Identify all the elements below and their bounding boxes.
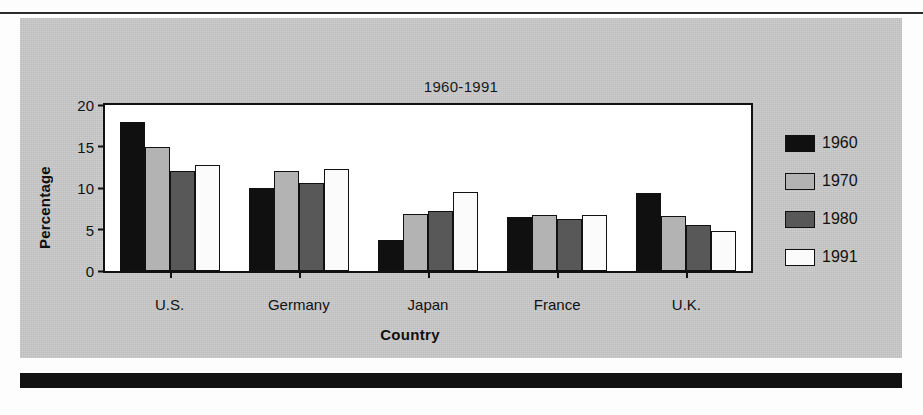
y-axis-tick-mark	[98, 229, 105, 231]
legend-item: 1970	[785, 162, 895, 200]
y-axis-tick: 5	[86, 221, 105, 238]
bar	[324, 169, 349, 271]
bar	[120, 122, 145, 271]
bar-group	[249, 105, 349, 271]
legend-swatch	[785, 249, 815, 266]
y-axis-tick-mark	[98, 104, 105, 106]
legend-label: 1980	[822, 210, 858, 228]
y-axis-tick: 20	[77, 97, 105, 114]
bar	[249, 188, 274, 271]
x-axis-tick-mark	[557, 271, 559, 278]
y-axis-tick-label: 15	[77, 138, 94, 155]
y-axis-tick: 0	[86, 263, 105, 280]
y-axis-tick-label: 10	[77, 180, 94, 197]
bar	[378, 240, 403, 271]
y-axis-label: Percentage	[36, 128, 58, 288]
bar-group	[507, 105, 607, 271]
y-axis-tick-mark	[98, 146, 105, 148]
x-axis-category-label: Germany	[268, 296, 330, 313]
x-axis-category-label: France	[534, 296, 581, 313]
bar	[453, 192, 478, 271]
page-top-rule	[0, 12, 923, 14]
x-axis-category-label: U.S.	[155, 296, 184, 313]
x-axis-label: Country	[80, 326, 740, 343]
legend-swatch	[785, 211, 815, 228]
y-axis-tick-label: 20	[77, 97, 94, 114]
legend-item: 1980	[785, 200, 895, 238]
bar	[403, 214, 428, 271]
x-axis-tick-mark	[170, 271, 172, 278]
legend-label: 1960	[822, 134, 858, 152]
bar	[428, 211, 453, 271]
y-axis-tick-label: 5	[86, 221, 94, 238]
x-axis-category-label: U.K.	[672, 296, 701, 313]
chart-title: 1960-1991	[20, 78, 902, 95]
legend-label: 1991	[822, 248, 858, 266]
bar	[170, 171, 195, 271]
figure-panel: 1960-1991 Percentage 05101520 U.S.German…	[20, 18, 902, 358]
legend-swatch	[785, 135, 815, 152]
y-axis-tick: 15	[77, 138, 105, 155]
plot-inner: 05101520	[105, 105, 751, 271]
chart-legend: 1960197019801991	[785, 124, 895, 276]
legend-item: 1960	[785, 124, 895, 162]
legend-label: 1970	[822, 172, 858, 190]
y-axis-tick: 10	[77, 180, 105, 197]
x-axis-tick-mark	[686, 271, 688, 278]
page-root: 1960-1991 Percentage 05101520 U.S.German…	[0, 0, 923, 415]
bar	[661, 216, 686, 271]
bar	[711, 231, 736, 271]
legend-swatch	[785, 173, 815, 190]
x-axis-tick-mark	[428, 271, 430, 278]
bar	[145, 147, 170, 272]
bar	[507, 217, 532, 271]
y-axis-tick-mark	[98, 270, 105, 272]
y-axis-tick-mark	[98, 187, 105, 189]
bar	[274, 171, 299, 271]
plot-area: 05101520	[103, 103, 753, 273]
x-axis-category-label: Japan	[408, 296, 449, 313]
y-axis-tick-label: 0	[86, 263, 94, 280]
bar	[686, 225, 711, 271]
bar	[557, 219, 582, 271]
bar-group	[636, 105, 736, 271]
legend-item: 1991	[785, 238, 895, 276]
bar	[299, 183, 324, 271]
bar	[636, 193, 661, 271]
bar	[532, 215, 557, 271]
page-bottom-band	[20, 373, 902, 388]
bar-group	[120, 105, 220, 271]
bar	[195, 165, 220, 271]
bar	[582, 215, 607, 271]
bar-group	[378, 105, 478, 271]
x-axis-tick-mark	[299, 271, 301, 278]
